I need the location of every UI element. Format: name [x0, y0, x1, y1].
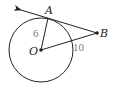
length-label-oa: 6: [33, 27, 39, 39]
label-a: A: [44, 4, 53, 17]
point-o-dot: [39, 48, 43, 52]
circle-tangent-diagram: A B O 6 10: [0, 0, 113, 87]
label-o: O: [29, 45, 38, 58]
label-b: B: [99, 27, 108, 40]
length-label-ob: 10: [73, 41, 85, 53]
radius-oa: [41, 18, 48, 50]
point-b-dot: [95, 31, 99, 35]
